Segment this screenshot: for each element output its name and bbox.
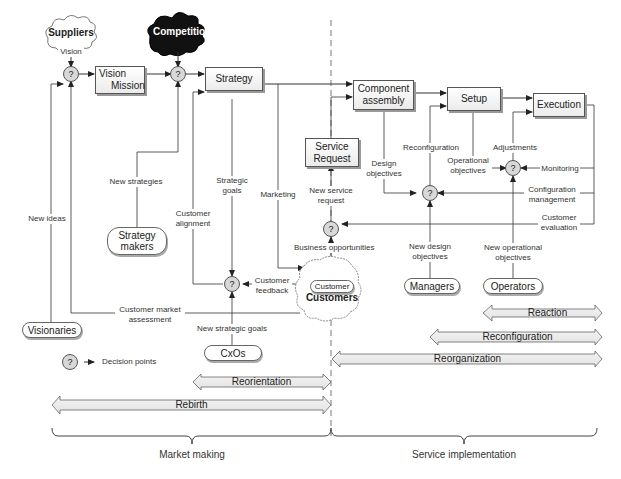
decision-point-design: ?	[422, 185, 438, 201]
actor-strategy-makers: Strategy makers	[107, 227, 167, 255]
brace-label-service-implementation: Service implementation	[404, 449, 524, 460]
band-label-reconfiguration: Reconfiguration	[440, 331, 595, 342]
decision-point-operations: ?	[505, 160, 521, 176]
label-design-objectives: Design objectives	[362, 159, 406, 179]
op-objectives-line1: Operational	[444, 156, 492, 166]
config-mgmt-line2: management	[524, 195, 580, 205]
nsr-line2: request	[307, 196, 355, 206]
strategic-goals-line2: goals	[212, 186, 252, 196]
suppliers-label: Suppliers	[48, 27, 94, 38]
execution-box: Execution	[533, 93, 585, 117]
customer-alignment-line1: Customer	[173, 209, 213, 219]
label-marketing: Marketing	[258, 190, 298, 200]
actor-customer: Customer	[310, 280, 354, 293]
no-objectives-line1: New operational	[480, 243, 546, 253]
label-vision: Vision	[58, 47, 84, 57]
request-label: Request	[313, 153, 350, 165]
label-business-opportunities: Business opportunities	[294, 243, 372, 253]
label-monitoring: Monitoring	[540, 164, 580, 174]
nd-objectives-line1: New design	[404, 242, 456, 252]
legend-decision-points: Decision points	[102, 357, 156, 367]
label-strategic-goals: Strategic goals	[212, 176, 252, 196]
brace-market-making	[52, 428, 331, 444]
component-assembly-box: Component assembly	[353, 80, 414, 110]
label-new-operational-objectives: New operational objectives	[480, 243, 546, 263]
design-objectives-line1: Design	[362, 159, 406, 169]
actor-cxos: CxOs	[204, 345, 262, 361]
label-configuration-management: Configuration management	[524, 185, 580, 205]
cust-eval-line1: Customer	[538, 213, 580, 223]
op-objectives-line2: objectives	[444, 166, 492, 176]
label-new-strategic-goals: New strategic goals	[196, 324, 268, 334]
no-objectives-line2: objectives	[480, 253, 546, 263]
cust-eval-line2: evaluation	[538, 223, 580, 233]
service-request-box: Service Request	[305, 138, 359, 167]
customer-alignment-line2: alignment	[173, 219, 213, 229]
legend-decision-icon: ?	[62, 354, 78, 370]
decision-point-strategy: ?	[170, 66, 186, 82]
actor-operators: Operators	[483, 278, 543, 294]
label-new-service-request: New service request	[307, 186, 355, 206]
decision-point-service: ?	[323, 221, 339, 237]
service-label: Service	[315, 141, 348, 153]
label-new-strategies: New strategies	[106, 177, 166, 187]
customers-label: Customers	[304, 292, 360, 303]
actor-visionaries: Visionaries	[22, 322, 82, 338]
vision-mission-box: Vision Mission	[95, 66, 145, 94]
decision-point-vision: ?	[63, 66, 79, 82]
brace-label-market-making: Market making	[142, 449, 242, 460]
mission-label: Mission	[99, 80, 145, 92]
strategy-makers-line1: Strategy	[118, 230, 155, 241]
nd-objectives-line2: objectives	[404, 252, 456, 262]
competition-label: Competition	[153, 26, 211, 37]
customer-feedback-line1: Customer	[252, 276, 292, 286]
band-label-reorientation: Reorientation	[200, 376, 323, 387]
label-new-design-objectives: New design objectives	[404, 242, 456, 262]
vision-label: Vision	[99, 68, 126, 80]
cma-line1: Customer market	[115, 305, 185, 315]
component-label: Component	[358, 83, 410, 95]
customer-feedback-line2: feedback	[252, 286, 292, 296]
cma-line2: assessment	[115, 315, 185, 325]
label-customer-market-assessment: Customer market assessment	[115, 305, 185, 325]
nsr-line1: New service	[307, 186, 355, 196]
label-customer-feedback: Customer feedback	[252, 276, 292, 296]
strategy-makers-line2: makers	[121, 241, 154, 252]
label-operational-objectives: Operational objectives	[444, 156, 492, 176]
label-customer-evaluation: Customer evaluation	[538, 213, 580, 233]
strategic-goals-line1: Strategic	[212, 176, 252, 186]
label-new-ideas: New ideas	[27, 214, 67, 224]
setup-box: Setup	[447, 87, 501, 111]
assembly-label: assembly	[362, 95, 404, 107]
label-customer-alignment: Customer alignment	[173, 209, 213, 229]
config-mgmt-line1: Configuration	[524, 185, 580, 195]
design-objectives-line2: objectives	[362, 169, 406, 179]
strategy-box: Strategy	[205, 67, 263, 91]
actor-managers: Managers	[404, 278, 460, 294]
band-label-reaction: Reaction	[500, 307, 595, 318]
label-reconfiguration: Reconfiguration	[401, 143, 461, 153]
band-label-reorganization: Reorganization	[340, 353, 595, 364]
decision-point-customer: ?	[224, 276, 240, 292]
label-adjustments: Adjustments	[492, 143, 538, 153]
band-label-rebirth: Rebirth	[60, 399, 323, 410]
brace-service-implementation	[331, 428, 597, 444]
